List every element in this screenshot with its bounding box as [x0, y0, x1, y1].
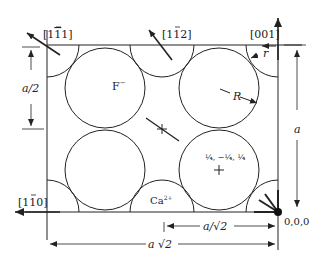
half-a-label: a/2 [22, 82, 39, 95]
fluorite-structure-diagram: [111] [112] [001] [110] F− Ca2+ R r ¼, −… [0, 0, 324, 267]
direction-111-label: [111] [43, 28, 73, 41]
small-radius-arrow [251, 55, 258, 58]
big-radius-arrow [240, 97, 257, 103]
big-radius-label: R [232, 90, 241, 103]
direction-001-label: [001] [250, 28, 280, 41]
a-root2-label: a √2 [148, 238, 172, 251]
position-coordinate-label: ¼, −¼, ¼ [205, 153, 245, 162]
a-over-root2-label: a/√2 [203, 220, 227, 233]
origin-label: 0,0,0 [284, 216, 309, 227]
origin-marker [254, 190, 282, 216]
anion-label: F− [112, 79, 126, 93]
position-plus-marker [214, 165, 224, 175]
cation-label: Ca2+ [150, 194, 172, 206]
small-radius-label: r [263, 47, 269, 60]
direction-110-label: [110] [18, 196, 48, 209]
a-label: a [294, 123, 301, 136]
direction-112-label: [112] [162, 28, 192, 41]
unit-cell-outline [25, 30, 302, 250]
center-plus-marker [157, 124, 167, 134]
